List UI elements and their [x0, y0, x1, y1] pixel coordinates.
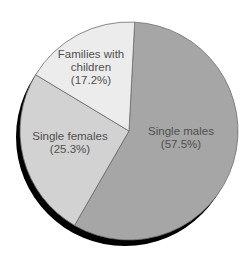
label-single-males-name: Single males: [148, 125, 214, 138]
label-single-females-pct: (25.3%): [32, 143, 107, 156]
label-single-males: Single males (57.5%): [148, 125, 214, 151]
label-single-females-name: Single females: [32, 130, 107, 143]
label-families-with-children: Families with children (17.2%): [58, 48, 124, 87]
label-single-males-pct: (57.5%): [148, 138, 214, 151]
label-families-line2: children: [58, 61, 124, 74]
label-families-line1: Families with: [58, 48, 124, 61]
label-families-pct: (17.2%): [58, 74, 124, 87]
label-single-females: Single females (25.3%): [32, 130, 107, 156]
